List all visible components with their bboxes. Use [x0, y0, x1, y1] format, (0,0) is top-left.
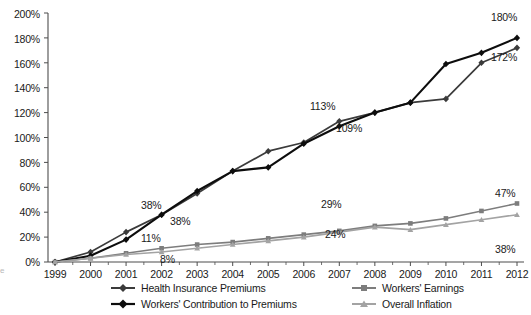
x-axis-tick-label: 2007: [319, 268, 359, 280]
legend-item-workers-earnings[interactable]: Workers' Earnings: [351, 281, 464, 295]
series-layer: [52, 35, 520, 266]
data-point-label: 109%: [336, 122, 362, 134]
y-axis-ticks: [44, 13, 48, 262]
data-point-label: 38%: [495, 243, 515, 255]
x-axis-tick-label: 2001: [106, 268, 146, 280]
x-axis-ticks: [55, 262, 517, 266]
legend-label: Workers' Earnings: [382, 282, 464, 294]
x-axis-tick-label: 2010: [426, 268, 466, 280]
x-axis-tick-label: 2004: [213, 268, 253, 280]
x-axis-tick-label: 2011: [461, 268, 501, 280]
legend-item-workers-contribution-to-premiums[interactable]: Workers' Contribution to Premiums: [110, 297, 297, 311]
x-axis-tick-label: 1999: [35, 268, 75, 280]
legend-label: Workers' Contribution to Premiums: [141, 298, 297, 310]
data-point-label: 24%: [325, 228, 345, 240]
x-axis-tick-label: 2012: [497, 268, 531, 280]
x-axis-tick-label: 2003: [177, 268, 217, 280]
x-axis-tick-label: 2005: [248, 268, 288, 280]
data-point-label: 29%: [321, 198, 341, 210]
data-point-label: 38%: [141, 199, 161, 211]
series-3: [52, 212, 520, 264]
series-1: [52, 35, 520, 266]
legend-marker-triangle-icon: [351, 298, 377, 310]
data-point-label: 11%: [141, 232, 161, 244]
x-axis-tick-label: 2008: [355, 268, 395, 280]
data-point-label: 38%: [170, 215, 190, 227]
x-axis-tick-label: 2006: [284, 268, 324, 280]
x-axis-tick-label: 2000: [71, 268, 111, 280]
legend-item-health-insurance-premiums[interactable]: Health Insurance Premiums: [110, 281, 266, 295]
x-axis-tick-label: 2002: [142, 268, 182, 280]
x-axis-tick-label: 2009: [390, 268, 430, 280]
data-point-label: 113%: [310, 100, 335, 112]
legend-marker-diamond-icon: [110, 298, 136, 310]
axes: [44, 13, 524, 266]
data-point-label: 180%: [491, 11, 517, 23]
chart-legend: Health Insurance Premiums Workers' Contr…: [110, 281, 530, 313]
legend-item-overall-inflation[interactable]: Overall Inflation: [351, 297, 452, 311]
legend-marker-square-icon: [351, 282, 377, 294]
legend-label: Health Insurance Premiums: [141, 282, 266, 294]
axis-corner-glyph: е: [0, 266, 4, 275]
legend-label: Overall Inflation: [382, 298, 452, 310]
data-point-label: 172%: [491, 51, 517, 63]
data-point-label: 47%: [495, 187, 515, 199]
data-point-label: 8%: [160, 253, 175, 265]
legend-marker-diamond-icon: [110, 282, 136, 294]
chart-container: 200% 180% 160% 140% 120% 100% 80% 60% 40…: [0, 0, 531, 315]
